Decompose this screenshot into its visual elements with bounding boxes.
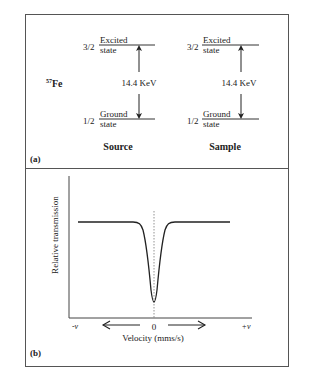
figure-canvas: 57Fe 3/2 Excited state 14.4 KeV 1/2 Grou… (0, 0, 309, 375)
panel-a-label: (a) (30, 154, 41, 164)
column-title: Sample (209, 141, 241, 152)
isotope-label: 57Fe (46, 78, 63, 89)
ground-spin: 1/2 (187, 116, 199, 126)
y-axis-label: Relative transmission (50, 196, 60, 274)
column-title: Source (103, 141, 133, 152)
x-axis-label: Velocity (mms/s) (122, 333, 184, 343)
ground-label-line1: Ground (100, 109, 128, 119)
panel-b-label: (b) (30, 348, 41, 358)
excited-spin: 3/2 (187, 42, 199, 52)
energy-label: 14.4 KeV (122, 78, 157, 88)
x-tick-neg-v: -v (72, 322, 79, 331)
energy-label: 14.4 KeV (222, 78, 257, 88)
x-tick-pos-v: +v (242, 322, 251, 331)
x-tick-zero: 0 (152, 322, 157, 332)
panel-a: 57Fe 3/2 Excited state 14.4 KeV 1/2 Grou… (30, 35, 259, 164)
sample-column: 3/2 Excited state 14.4 KeV 1/2 Ground st… (187, 35, 259, 152)
ground-label-line2: state (203, 119, 220, 129)
excited-label-line1: Excited (203, 35, 231, 45)
panel-b: Relative transmission -v 0 +v Velocity (… (30, 176, 252, 358)
excited-label-line2: state (100, 45, 117, 55)
excited-spin: 3/2 (83, 42, 95, 52)
ground-label-line2: state (100, 119, 117, 129)
ground-label-line1: Ground (203, 109, 231, 119)
excited-label-line1: Excited (100, 35, 128, 45)
source-column: 3/2 Excited state 14.4 KeV 1/2 Ground st… (83, 35, 157, 152)
ground-spin: 1/2 (83, 116, 95, 126)
excited-label-line2: state (203, 45, 220, 55)
